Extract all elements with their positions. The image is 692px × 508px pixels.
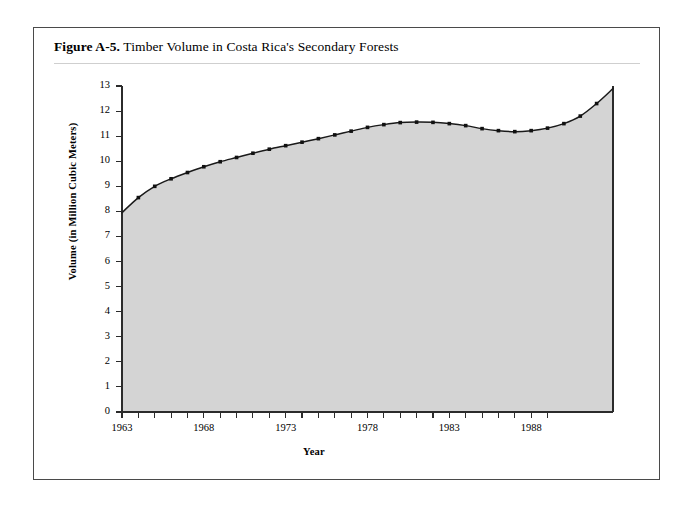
y-tick-label: 3: [84, 330, 110, 341]
data-point-marker: [398, 121, 402, 125]
data-point-marker: [235, 156, 239, 160]
y-tick-label: 12: [84, 104, 110, 115]
y-axis-title: Volume (in Million Cubic Meters): [67, 102, 78, 302]
x-tick-label: 1983: [429, 422, 469, 433]
x-axis-ticks: [122, 412, 548, 418]
y-tick-label: 5: [84, 280, 110, 291]
x-tick-label: 1963: [102, 422, 142, 433]
y-tick-label: 10: [84, 154, 110, 165]
data-point-marker: [153, 185, 157, 189]
data-point-marker: [448, 122, 452, 126]
data-point-marker: [480, 127, 484, 131]
x-tick-label: 1988: [511, 422, 551, 433]
y-tick-label: 0: [84, 405, 110, 416]
data-point-marker: [317, 137, 321, 141]
data-point-marker: [415, 120, 419, 124]
data-point-marker: [333, 133, 337, 137]
x-tick-label: 1978: [348, 422, 388, 433]
data-point-marker: [529, 129, 533, 133]
y-tick-label: 8: [84, 204, 110, 215]
data-point-marker: [284, 144, 288, 148]
y-tick-label: 1: [84, 380, 110, 391]
y-tick-label: 7: [84, 229, 110, 240]
data-point-marker: [578, 114, 582, 118]
y-tick-label: 6: [84, 255, 110, 266]
data-point-marker: [169, 177, 173, 181]
data-point-marker: [595, 102, 599, 106]
data-point-marker: [382, 123, 386, 127]
data-point-marker: [300, 140, 304, 144]
x-axis-title: Year: [34, 446, 594, 457]
data-point-marker: [366, 126, 370, 130]
data-point-marker: [562, 122, 566, 126]
data-point-marker: [268, 147, 272, 151]
x-tick-label: 1973: [266, 422, 306, 433]
figure-frame: Figure A-5. Timber Volume in Costa Rica'…: [33, 27, 660, 480]
y-tick-label: 4: [84, 305, 110, 316]
y-axis-ticks: [116, 86, 122, 412]
x-tick-label: 1968: [184, 422, 224, 433]
data-point-marker: [546, 126, 550, 130]
y-tick-label: 13: [84, 79, 110, 90]
chart-svg: [34, 28, 661, 481]
y-tick-label: 11: [84, 129, 110, 140]
data-point-marker: [349, 129, 353, 133]
chart-area-fill: [122, 89, 613, 412]
data-point-marker: [464, 124, 468, 128]
data-point-marker: [202, 165, 206, 169]
y-tick-label: 9: [84, 179, 110, 190]
data-point-marker: [186, 171, 190, 175]
chart-plot-area: Volume (in Million Cubic Meters) Year 01…: [34, 28, 661, 481]
y-tick-label: 2: [84, 355, 110, 366]
data-point-marker: [431, 121, 435, 125]
data-point-marker: [137, 196, 141, 200]
data-point-marker: [513, 130, 517, 134]
data-point-marker: [251, 151, 255, 155]
data-point-marker: [497, 129, 501, 133]
data-point-marker: [218, 160, 222, 164]
